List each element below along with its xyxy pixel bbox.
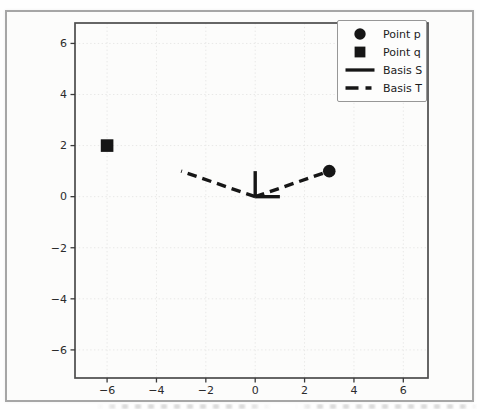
- y-tick-label: −4: [51, 293, 67, 306]
- x-tick-label: 6: [400, 384, 407, 397]
- y-tick-label: 4: [60, 88, 67, 101]
- basis-s-legend-swatch: [345, 63, 375, 77]
- legend-label: Basis T: [383, 83, 422, 94]
- legend-label: Point p: [383, 29, 421, 40]
- x-tick-label: 2: [301, 384, 308, 397]
- legend-item-basis-s: Basis S: [345, 63, 420, 77]
- legend-circle-marker-icon: [354, 28, 365, 39]
- figure-frame: −6−4−20246−6−4−20246 Point pPoint qBasis…: [5, 10, 474, 402]
- point-p-marker: [323, 165, 336, 178]
- x-tick-label: 0: [252, 384, 259, 397]
- legend: Point pPoint qBasis SBasis T: [337, 20, 427, 102]
- point-q-legend-swatch: [345, 45, 375, 59]
- y-tick-label: −2: [51, 242, 67, 255]
- y-tick-label: 6: [60, 37, 67, 50]
- point-p-legend-swatch: [345, 27, 375, 41]
- y-tick-label: 2: [60, 139, 67, 152]
- legend-item-point-p: Point p: [345, 27, 420, 41]
- legend-item-basis-t: Basis T: [345, 81, 420, 95]
- basis-t-vector-1: [255, 171, 329, 197]
- x-tick-label: −6: [99, 384, 115, 397]
- legend-label: Point q: [383, 47, 421, 58]
- x-tick-label: −4: [148, 384, 164, 397]
- basis-t-legend-swatch: [345, 81, 375, 95]
- point-q-marker: [101, 139, 114, 152]
- x-tick-label: 4: [350, 384, 357, 397]
- x-tick-label: −2: [198, 384, 214, 397]
- legend-label: Basis S: [383, 65, 422, 76]
- legend-item-point-q: Point q: [345, 45, 420, 59]
- cropped-caption-text-remnant: [96, 404, 478, 409]
- y-tick-label: 0: [60, 190, 67, 203]
- y-tick-label: −6: [51, 344, 67, 357]
- legend-square-marker-icon: [355, 47, 366, 58]
- basis-t-vector-2: [181, 171, 255, 197]
- figure-photo: −6−4−20246−6−4−20246 Point pPoint qBasis…: [0, 0, 480, 410]
